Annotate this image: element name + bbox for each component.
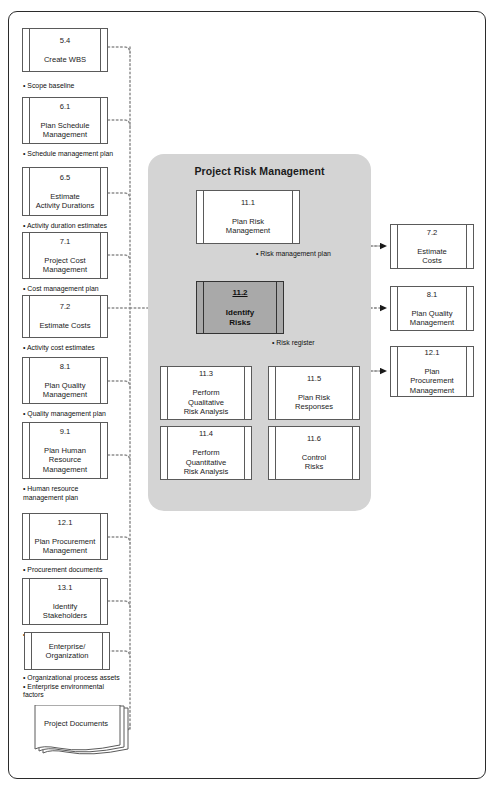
input-number: 6.1 [60, 102, 71, 111]
box-bar-left [31, 633, 32, 669]
process-title: Control Risks [302, 453, 326, 471]
input-plan-human-resource-management[interactable]: 9.1 Plan Human Resource Management [22, 422, 108, 479]
input-number: 7.2 [60, 302, 71, 311]
box-bar-left [29, 579, 30, 624]
input-title: Project Cost Management [43, 256, 87, 274]
input-note-cost-management-plan: • Cost management plan [23, 285, 99, 294]
box-bar-right [466, 225, 467, 268]
box-bar-left [275, 427, 276, 479]
input-note-scope-baseline: • Scope baseline [23, 82, 74, 91]
box-bar-right [244, 427, 245, 479]
box-bar-right [100, 579, 101, 624]
process-label: 11.1 Plan Risk Management [217, 198, 279, 236]
process-title: Perform Qualitative Risk Analysis [184, 388, 229, 416]
process-plan-risk-management[interactable]: 11.1 Plan Risk Management [196, 190, 300, 244]
input-label: 5.4 Create WBS [35, 36, 95, 64]
process-number: 11.1 [241, 198, 255, 207]
input-number: 9.1 [60, 427, 71, 436]
input-project-documents[interactable]: Project Documents [31, 705, 132, 763]
input-label: 6.1 Plan Schedule Management [32, 102, 99, 140]
box-bar-right [352, 367, 353, 419]
input-enterprise-organization[interactable]: Enterprise/ Organization [24, 632, 110, 670]
box-bar-left [29, 358, 30, 403]
output-label: 7.2 Estimate Costs [408, 228, 456, 266]
project-documents-icon [31, 705, 132, 763]
box-bar-right [100, 29, 101, 71]
input-note-quality-management-plan: • Quality management plan [23, 410, 106, 419]
box-bar-right [100, 423, 101, 478]
output-number: 12.1 [425, 348, 440, 357]
input-note-enterprise: • Organizational process assets • Enterp… [23, 674, 120, 700]
input-title: Estimate Activity Durations [36, 192, 95, 210]
input-estimate-activity-durations[interactable]: 6.5 Estimate Activity Durations [22, 167, 108, 216]
process-title: Perform Quantitative Risk Analysis [184, 448, 229, 476]
box-bar-right [102, 633, 103, 669]
input-note-schedule-management-plan: • Schedule management plan [23, 150, 113, 159]
input-plan-quality-management[interactable]: 8.1 Plan Quality Management [22, 357, 108, 404]
process-label: 11.6 Control Risks [293, 434, 335, 472]
input-number: 12.1 [58, 518, 73, 527]
input-plan-procurement-management[interactable]: 12.1 Plan Procurement Management [22, 513, 108, 560]
input-title: Plan Human Resource Management [43, 446, 87, 474]
box-bar-left [29, 98, 30, 143]
output-label: 8.1 Plan Quality Management [401, 290, 463, 328]
flow-label-risk-register: • Risk register [272, 339, 315, 348]
input-title: Create WBS [44, 55, 86, 64]
process-number: 11.3 [199, 369, 213, 378]
input-identify-stakeholders[interactable]: 13.1 Identify Stakeholders [22, 578, 108, 625]
input-plan-schedule-management[interactable]: 6.1 Plan Schedule Management [22, 97, 108, 144]
process-title: Plan Risk Responses [295, 393, 333, 411]
input-note-human-resource-management-plan: • Human resource management plan [23, 485, 78, 502]
input-number: 5.4 [60, 36, 71, 45]
box-bar-left [397, 287, 398, 330]
input-project-cost-management[interactable]: 7.1 Project Cost Management [22, 232, 108, 279]
process-number: 11.6 [307, 434, 321, 443]
box-bar-right [352, 427, 353, 479]
input-create-wbs[interactable]: 5.4 Create WBS [22, 28, 108, 72]
output-number: 8.1 [427, 290, 438, 299]
input-title: Enterprise/ Organization [36, 642, 97, 661]
box-bar-left [29, 29, 30, 71]
output-title: Plan Quality Management [410, 309, 454, 327]
input-note-activity-cost-estimates: • Activity cost estimates [23, 344, 95, 353]
process-perform-quantitative-risk-analysis[interactable]: 11.4 Perform Quantitative Risk Analysis [160, 426, 252, 480]
box-bar-left [397, 225, 398, 268]
process-identify-risks[interactable]: 11.2 Identify Risks [196, 281, 284, 334]
box-bar-left [203, 282, 204, 333]
flow-label-risk-management-plan: • Risk management plan [256, 250, 331, 259]
input-number: 13.1 [58, 583, 73, 592]
diagram-page: Project Risk Management 11.1 Plan Risk M… [0, 0, 498, 797]
process-title: Identify Risks [226, 308, 254, 327]
input-estimate-costs[interactable]: 7.2 Estimate Costs [22, 295, 108, 338]
output-estimate-costs[interactable]: 7.2 Estimate Costs [390, 224, 474, 269]
output-plan-quality-management[interactable]: 8.1 Plan Quality Management [390, 286, 474, 331]
input-number: 7.1 [60, 237, 71, 246]
process-control-risks[interactable]: 11.6 Control Risks [268, 426, 360, 480]
box-bar-right [244, 367, 245, 419]
input-label: 13.1 Identify Stakeholders [34, 583, 96, 621]
output-plan-procurement-management[interactable]: 12.1 Plan Procurement Management [390, 346, 474, 397]
process-plan-risk-responses[interactable]: 11.5 Plan Risk Responses [268, 366, 360, 420]
process-number: 11.5 [307, 374, 321, 383]
box-bar-left [167, 427, 168, 479]
input-label: 9.1 Plan Human Resource Management [34, 427, 96, 474]
box-bar-right [292, 191, 293, 243]
process-label: 11.5 Plan Risk Responses [286, 374, 342, 412]
input-title: Plan Quality Management [43, 381, 87, 399]
box-bar-right [100, 233, 101, 278]
input-title: Identify Stakeholders [43, 602, 87, 620]
box-bar-right [100, 98, 101, 143]
input-label: 6.5 Estimate Activity Durations [27, 173, 104, 211]
output-number: 7.2 [427, 228, 438, 237]
process-label: 11.3 Perform Qualitative Risk Analysis [175, 369, 238, 416]
process-perform-qualitative-risk-analysis[interactable]: 11.3 Perform Qualitative Risk Analysis [160, 366, 252, 420]
output-label: 12.1 Plan Procurement Management [401, 348, 463, 395]
process-label: 11.4 Perform Quantitative Risk Analysis [175, 429, 238, 476]
box-bar-right [466, 287, 467, 330]
input-title: Project Documents [39, 719, 113, 729]
box-bar-left [29, 233, 30, 278]
input-label: 7.1 Project Cost Management [34, 237, 96, 275]
input-label: 8.1 Plan Quality Management [34, 362, 96, 400]
box-bar-right [276, 282, 277, 333]
input-title: Plan Procurement Management [35, 537, 96, 555]
